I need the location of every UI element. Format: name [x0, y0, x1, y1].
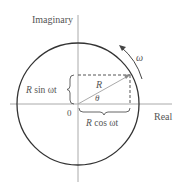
phasor-diagram: Imaginary Real 0 R θ ω R sin ωt R cos ωt [0, 0, 185, 193]
vector-r-label: R [95, 79, 102, 90]
angle-theta-label: θ [95, 93, 100, 103]
phasor-svg: Imaginary Real 0 R θ ω R sin ωt R cos ωt [0, 0, 185, 193]
imaginary-axis-label: Imaginary [32, 14, 73, 25]
real-axis-label: Real [154, 111, 173, 122]
vector-r [78, 76, 128, 104]
omega-label: ω [136, 52, 143, 63]
horizontal-component-label: R cos ωt [85, 118, 118, 128]
vertical-component-brace [67, 75, 74, 104]
origin-label: 0 [67, 108, 72, 118]
horizontal-component-text: cos ωt [92, 118, 119, 128]
vertical-component-text: sin ωt [32, 85, 57, 95]
vertical-component-label: R sin ωt [25, 85, 57, 95]
horizontal-component-brace [79, 108, 130, 115]
